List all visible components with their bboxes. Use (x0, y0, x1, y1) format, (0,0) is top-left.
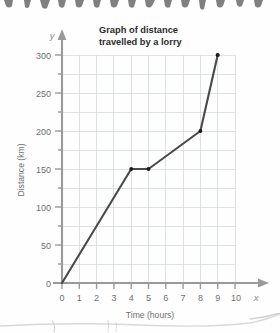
y-tick-label: 100 (36, 203, 51, 213)
scan-artifact-bottom (0, 313, 280, 333)
data-point (147, 167, 151, 171)
x-tick-label: 5 (146, 293, 151, 303)
data-point (216, 53, 220, 57)
y-tick-label: 0 (46, 279, 51, 289)
x-axis-arrowhead (258, 279, 269, 288)
x-tick-label: 2 (94, 293, 99, 303)
chart-title-line-1: Graph of distance (99, 25, 178, 35)
y-tick-label: 250 (36, 89, 51, 99)
x-tick-label: 4 (129, 293, 134, 303)
distance-time-chart: 300 250 200 150 100 50 0 0 1 2 3 4 5 6 7… (0, 0, 280, 333)
y-axis-title: Distance (km) (16, 143, 26, 196)
y-tick-label: 200 (36, 127, 51, 137)
data-point (129, 167, 133, 171)
x-tick-label: 9 (215, 293, 220, 303)
x-tick-label: 10 (231, 293, 241, 303)
x-tick-label: 8 (198, 293, 203, 303)
x-tick-label: 3 (111, 293, 116, 303)
x-tick-label: 1 (77, 293, 82, 303)
chart-svg: 300 250 200 150 100 50 0 0 1 2 3 4 5 6 7… (0, 0, 280, 333)
y-axis-arrowhead (58, 29, 67, 40)
chart-page: 300 250 200 150 100 50 0 0 1 2 3 4 5 6 7… (0, 0, 280, 333)
data-point (199, 129, 203, 133)
x-tick-label: 7 (181, 293, 186, 303)
chart-title-line-2: travelled by a lorry (99, 37, 183, 47)
y-tick-label: 300 (36, 51, 51, 61)
x-tick-label: 0 (59, 293, 64, 303)
x-tick-label: 6 (163, 293, 168, 303)
x-axis-variable-label: x (253, 292, 260, 303)
y-tick-label: 150 (36, 165, 51, 175)
y-axis-variable-label: y (49, 30, 56, 41)
y-tick-label: 50 (41, 241, 51, 251)
